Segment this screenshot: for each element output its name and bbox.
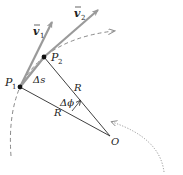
label-v2: v 2 <box>74 7 85 22</box>
svg-text:v: v <box>74 7 81 20</box>
velocity-vector-v2 <box>44 10 98 57</box>
point-p1 <box>18 85 23 90</box>
label-p2: P 2 <box>50 51 62 66</box>
circular-motion-diagram: v 1 v 2 P 1 P 2 Δs R R Δϕ O <box>0 0 183 175</box>
svg-text:v: v <box>33 25 40 38</box>
svg-text:1: 1 <box>40 32 44 40</box>
label-delta-s: Δs <box>32 74 45 85</box>
dashed-path-arc <box>10 31 114 156</box>
label-radius-lower: R <box>53 107 62 118</box>
label-delta-phi: Δϕ <box>59 97 74 108</box>
label-v1: v 1 <box>33 25 44 40</box>
point-p2 <box>42 55 47 60</box>
label-p1: P 1 <box>4 76 16 91</box>
dotted-rotation-arc <box>112 122 164 172</box>
svg-text:1: 1 <box>12 83 16 91</box>
svg-text:2: 2 <box>58 58 62 66</box>
label-center-o: O <box>111 136 119 147</box>
radius-line-p2 <box>44 57 110 136</box>
radius-line-p1 <box>20 87 110 136</box>
label-radius-upper: R <box>73 82 82 93</box>
svg-text:2: 2 <box>81 14 85 22</box>
